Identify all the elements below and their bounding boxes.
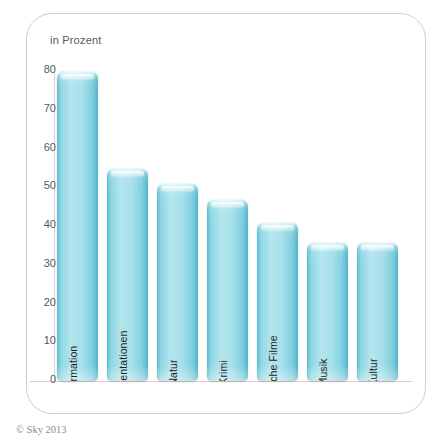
copyright-notice: © Sky 2013 <box>16 424 67 435</box>
chart-figure: in Prozent 01020304050607080 Information… <box>0 0 442 445</box>
bar-musik[interactable]: Musik <box>307 242 348 382</box>
bar-kultur[interactable]: Kultur <box>357 242 398 382</box>
bar-deutsche-filme[interactable]: Deutsche Filme <box>257 222 298 381</box>
bar-gloss-highlight <box>261 225 294 231</box>
bar-gloss-highlight <box>211 202 244 208</box>
bar-label-information: Information <box>67 345 78 381</box>
bar-label-dokumentationen: Dokumentationen <box>117 330 128 381</box>
bar-gloss-highlight <box>361 245 394 251</box>
bar-label-natur: Natur <box>167 359 178 381</box>
bar-krimi[interactable]: Krimi <box>207 199 248 381</box>
bar-gloss-highlight <box>311 245 344 251</box>
bar-gloss-highlight <box>161 186 194 192</box>
bar-gloss-highlight <box>111 171 144 177</box>
bar-natur[interactable]: Natur <box>157 183 198 381</box>
bar-label-kultur: Kultur <box>367 358 378 381</box>
bar-gloss-highlight <box>61 74 94 80</box>
bar-label-deutsche-filme: Deutsche Filme <box>267 335 278 381</box>
bar-label-musik: Musik <box>317 358 328 381</box>
bar-information[interactable]: Information <box>57 71 98 381</box>
bars-layer: InformationDokumentationenNaturKrimiDeut… <box>0 0 442 445</box>
bar-label-krimi: Krimi <box>217 360 228 381</box>
bar-dokumentationen[interactable]: Dokumentationen <box>107 168 148 381</box>
